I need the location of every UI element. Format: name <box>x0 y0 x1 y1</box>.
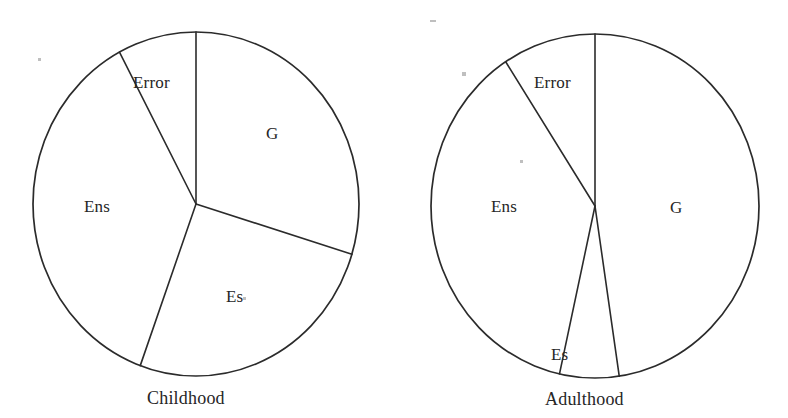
wedge-label-adulthood-es: Es <box>551 346 568 363</box>
wedge-label-childhood-es: Es <box>226 288 243 305</box>
pie-chart-figure: G Es Ens Error Childhood G Es Ens Error … <box>0 0 788 418</box>
wedge-label-childhood-ens: Ens <box>84 198 110 215</box>
chart-caption-childhood: Childhood <box>147 389 225 407</box>
chart-caption-adulthood: Adulthood <box>545 390 624 408</box>
scan-speck <box>462 72 466 76</box>
wedge-label-adulthood-error: Error <box>534 74 571 91</box>
wedge-label-childhood-error: Error <box>133 74 170 91</box>
slice-divider-adulthood-1 <box>595 206 619 376</box>
wedge-label-adulthood-ens: Ens <box>491 198 517 215</box>
slice-divider-childhood-1 <box>196 204 352 254</box>
slice-divider-childhood-2 <box>140 204 196 366</box>
scan-speck <box>430 20 436 22</box>
scan-speck <box>38 58 41 61</box>
wedge-label-adulthood-g: G <box>670 199 682 216</box>
wedge-label-childhood-g: G <box>266 125 278 142</box>
scan-speck <box>243 297 246 300</box>
scan-speck <box>520 160 523 163</box>
